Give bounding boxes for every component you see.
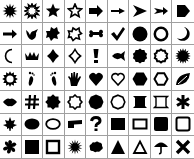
badge-outline-icon (67, 94, 83, 110)
shape-cell-star-filled[interactable] (43, 0, 65, 23)
flag-icon (67, 116, 83, 132)
shape-cell-checkmark[interactable] (108, 23, 130, 46)
shape-cell-umbrella[interactable] (151, 136, 173, 159)
shape-cell-badge-filled[interactable] (43, 91, 65, 114)
shape-cell-hexagon-outline[interactable] (151, 68, 173, 91)
shape-cell-badge-outline[interactable] (65, 91, 87, 114)
shape-cell-circle-outline[interactable] (151, 23, 173, 46)
seal-outline-icon (153, 48, 169, 64)
shape-cell-square-filled[interactable] (22, 136, 44, 159)
shape-cell-decagon-filled[interactable] (86, 91, 108, 114)
ellipse-outline-icon (45, 116, 61, 132)
shape-cell-triangle-outline[interactable] (129, 136, 151, 159)
shape-cell-diamond-outline[interactable] (65, 45, 87, 68)
shape-cell-ellipse-outline[interactable] (43, 114, 65, 137)
x-cross-icon (175, 139, 191, 155)
shape-cell-flower[interactable] (0, 136, 22, 159)
bird-icon (24, 26, 40, 42)
splat-icon (67, 139, 83, 155)
shape-cell-hand[interactable] (65, 68, 87, 91)
asterisk-icon (175, 94, 191, 110)
arrow-pentagon-icon (175, 3, 191, 19)
shape-cell-rounded-square-filled[interactable] (151, 114, 173, 137)
shape-cell-cloud[interactable] (86, 136, 108, 159)
shape-cell-sun-burst[interactable] (172, 45, 194, 68)
shape-cell-moon-outline[interactable] (0, 45, 22, 68)
heart-filled-icon (88, 71, 104, 87)
explosion-outline-icon (24, 3, 40, 19)
seal-filled-icon (132, 48, 148, 64)
shape-cell-bone[interactable] (86, 23, 108, 46)
square-outline-icon (45, 139, 61, 155)
shape-cell-moon-filled[interactable] (172, 23, 194, 46)
shape-cell-maple-leaf[interactable] (0, 114, 22, 137)
shape-cell-sun[interactable] (0, 68, 22, 91)
shape-cell-scroll-banner-outline[interactable] (151, 91, 173, 114)
footprint-left-icon (24, 71, 40, 87)
shape-cell-puzzle-blob-filled[interactable] (43, 23, 65, 46)
shape-cell-arrow-right-bold[interactable] (0, 23, 22, 46)
shape-cell-rect-filled[interactable] (108, 114, 130, 137)
shape-cell-arrow-right-block[interactable] (86, 0, 108, 23)
scroll-banner-outline-icon (153, 94, 169, 110)
shape-cell-question-mark[interactable] (86, 114, 108, 137)
decagon-outline-icon (110, 94, 126, 110)
shape-cell-explosion-filled[interactable] (0, 0, 22, 23)
shape-cell-seal-filled[interactable] (129, 45, 151, 68)
shape-cell-flag[interactable] (65, 114, 87, 137)
shape-cell-rect-outline[interactable] (129, 114, 151, 137)
shape-cell-explosion-outline[interactable] (22, 0, 44, 23)
shape-cell-seal-outline[interactable] (151, 45, 173, 68)
shape-cell-triangle-filled[interactable] (108, 136, 130, 159)
shape-cell-splat[interactable] (65, 136, 87, 159)
shape-cell-diamond-filled[interactable] (43, 45, 65, 68)
puzzle-blob-outline-icon (67, 26, 83, 42)
rect-outline-icon (132, 116, 148, 132)
shape-cell-arrow-pentagon[interactable] (172, 0, 194, 23)
hand-icon (67, 71, 83, 87)
shape-cell-bird[interactable] (22, 23, 44, 46)
shape-cell-decagon-outline[interactable] (108, 91, 130, 114)
shape-cell-puzzle-blob-outline[interactable] (65, 23, 87, 46)
shape-cell-heart-filled[interactable] (86, 68, 108, 91)
shape-cell-ellipse-filled[interactable] (22, 114, 44, 137)
shape-cell-fish[interactable] (108, 45, 130, 68)
flower-icon (2, 139, 18, 155)
square-filled-icon (24, 139, 40, 155)
triangle-outline-icon (132, 139, 148, 155)
shape-cell-leaf[interactable] (172, 68, 194, 91)
rect-filled-icon (110, 116, 126, 132)
shape-cell-footprint-left[interactable] (22, 68, 44, 91)
shape-cell-hash[interactable] (22, 91, 44, 114)
moon-outline-icon (2, 48, 18, 64)
shape-cell-crown[interactable] (22, 45, 44, 68)
crown-icon (24, 48, 40, 64)
shape-cell-arrow-right-feather[interactable] (151, 0, 173, 23)
shape-grid (0, 0, 194, 159)
shape-cell-scroll-banner-filled[interactable] (129, 91, 151, 114)
shape-cell-arrow-right-thin[interactable] (108, 0, 130, 23)
checkmark-icon (110, 26, 126, 42)
shape-cell-x-cross[interactable] (172, 136, 194, 159)
shape-cell-footprint-right[interactable] (43, 68, 65, 91)
shape-cell-circle-filled[interactable] (129, 23, 151, 46)
puzzle-blob-filled-icon (45, 26, 61, 42)
shape-cell-heart-outline[interactable] (108, 68, 130, 91)
shape-cell-hexagon-filled[interactable] (129, 68, 151, 91)
scroll-banner-filled-icon (132, 94, 148, 110)
shape-cell-lips[interactable] (0, 91, 22, 114)
shape-cell-asterisk[interactable] (172, 91, 194, 114)
shape-cell-rounded-square-outline[interactable] (172, 114, 194, 137)
arrow-right-bold-icon (2, 26, 18, 42)
lips-icon (2, 94, 18, 110)
shape-cell-star-outline[interactable] (65, 0, 87, 23)
bone-icon (88, 26, 104, 42)
shape-cell-square-outline[interactable] (43, 136, 65, 159)
hexagon-filled-icon (132, 71, 148, 87)
decagon-filled-icon (88, 94, 104, 110)
shape-cell-arrow-right-notched[interactable] (129, 0, 151, 23)
arrow-right-feather-icon (153, 3, 169, 19)
hash-icon (24, 94, 40, 110)
question-mark-icon (88, 116, 104, 132)
shape-cell-exclamation[interactable] (86, 45, 108, 68)
